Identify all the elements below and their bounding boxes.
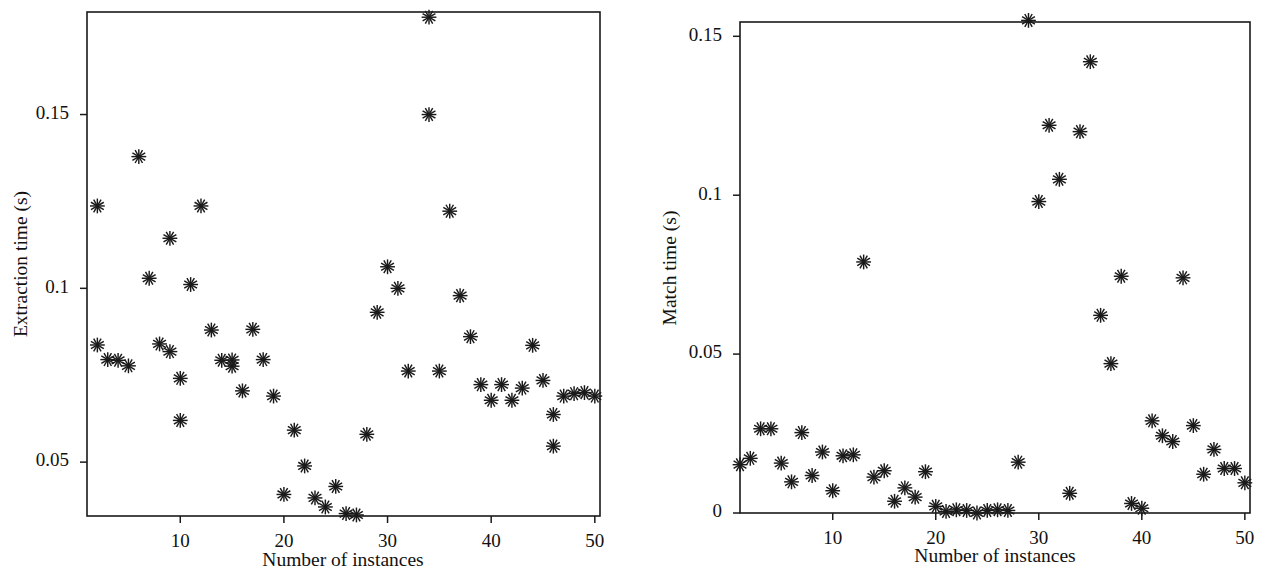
extraction-time-plot: 0.050.10.151020304050 Number of instance…: [0, 0, 636, 582]
scatter-marker: [1196, 467, 1211, 482]
scatter-marker: [515, 381, 530, 396]
x-tick-label: 10: [823, 527, 842, 548]
scatter-marker: [825, 483, 840, 498]
scatter-marker: [432, 364, 447, 379]
scatter-marker: [1042, 118, 1057, 133]
x-tick-label: 40: [1132, 527, 1151, 548]
data-points-right: [733, 13, 1253, 520]
scatter-marker: [846, 447, 861, 462]
x-axis-title-left: Number of instances: [262, 549, 423, 570]
scatter-marker: [536, 373, 551, 388]
scatter-marker: [90, 338, 105, 353]
scatter-marker: [277, 487, 292, 502]
scatter-marker: [836, 448, 851, 463]
scatter-marker: [1031, 194, 1046, 209]
scatter-marker: [856, 255, 871, 270]
scatter-marker: [204, 323, 219, 338]
y-tick-label: 0.05: [36, 449, 69, 470]
scatter-marker: [764, 421, 779, 436]
x-tick-label: 30: [378, 530, 397, 551]
x-tick-label: 20: [274, 530, 293, 551]
scatter-marker: [484, 393, 499, 408]
scatter-marker: [194, 199, 209, 214]
figure-container: 0.050.10.151020304050 Number of instance…: [0, 0, 1273, 582]
y-tick-label: 0.15: [689, 24, 722, 45]
x-axis-title-right: Number of instances: [914, 545, 1075, 566]
scatter-marker: [183, 277, 198, 292]
y-axis-title-left: Extraction time (s): [10, 191, 32, 337]
scatter-marker: [743, 451, 758, 466]
scatter-marker: [173, 413, 188, 428]
scatter-marker: [245, 322, 260, 337]
scatter-marker: [370, 305, 385, 320]
scatter-panel-match-time: 00.050.10.151020304050 Number of instanc…: [636, 0, 1273, 582]
scatter-marker: [774, 456, 789, 471]
scatter-marker: [142, 271, 157, 286]
scatter-marker: [546, 407, 561, 422]
x-tick-label: 40: [482, 530, 501, 551]
axis-ticks-right: 00.050.10.151020304050: [689, 24, 1255, 548]
y-tick-label: 0.15: [36, 102, 69, 123]
scatter-marker: [918, 464, 933, 479]
scatter-marker: [1021, 13, 1036, 28]
scatter-marker: [1176, 270, 1191, 285]
scatter-marker: [1145, 413, 1160, 428]
scatter-marker: [401, 364, 416, 379]
axis-ticks-left: 0.050.10.151020304050: [36, 102, 605, 551]
scatter-marker: [805, 468, 820, 483]
scatter-marker: [473, 377, 488, 392]
scatter-marker: [328, 479, 343, 494]
scatter-marker: [1186, 418, 1201, 433]
x-tick-label: 10: [171, 530, 190, 551]
scatter-marker: [546, 439, 561, 454]
scatter-marker: [877, 463, 892, 478]
scatter-marker: [1114, 269, 1129, 284]
scatter-marker: [505, 393, 520, 408]
scatter-marker: [391, 281, 406, 296]
scatter-marker: [463, 329, 478, 344]
y-axis-title-right: Match time (s): [659, 211, 681, 326]
scatter-marker: [1073, 124, 1088, 139]
data-points-left: [90, 10, 602, 523]
scatter-marker: [1083, 54, 1098, 69]
scatter-marker: [266, 389, 281, 404]
scatter-marker: [1093, 308, 1108, 323]
y-tick-label: 0.05: [689, 341, 722, 362]
scatter-marker: [1000, 503, 1015, 518]
scatter-marker: [318, 500, 333, 515]
scatter-marker: [173, 371, 188, 386]
scatter-marker: [525, 338, 540, 353]
scatter-marker: [308, 491, 323, 506]
scatter-marker: [794, 425, 809, 440]
x-tick-label: 50: [1235, 527, 1254, 548]
scatter-marker: [1227, 461, 1242, 476]
scatter-marker: [733, 457, 748, 472]
y-tick-label: 0.1: [698, 183, 722, 204]
scatter-marker: [297, 459, 312, 474]
scatter-marker: [235, 383, 250, 398]
scatter-marker: [453, 288, 468, 303]
scatter-marker: [1011, 455, 1026, 470]
scatter-marker: [442, 204, 457, 219]
scatter-marker: [867, 470, 882, 485]
scatter-marker: [359, 427, 374, 442]
scatter-marker: [815, 445, 830, 460]
scatter-marker: [1207, 442, 1222, 457]
scatter-marker: [287, 423, 302, 438]
scatter-marker: [887, 494, 902, 509]
scatter-panel-extraction-time: 0.050.10.151020304050 Number of instance…: [0, 0, 636, 582]
scatter-marker: [1062, 486, 1077, 501]
scatter-marker: [908, 490, 923, 505]
scatter-marker: [422, 107, 437, 122]
scatter-marker: [225, 359, 240, 374]
y-tick-label: 0: [713, 500, 723, 521]
plot-frame-left: [87, 12, 600, 516]
scatter-marker: [1052, 172, 1067, 187]
match-time-plot: 00.050.10.151020304050 Number of instanc…: [636, 0, 1273, 582]
scatter-marker: [1104, 356, 1119, 371]
scatter-marker: [90, 199, 105, 214]
scatter-marker: [256, 352, 271, 367]
scatter-marker: [163, 231, 178, 246]
scatter-marker: [380, 259, 395, 274]
scatter-marker: [784, 474, 799, 489]
